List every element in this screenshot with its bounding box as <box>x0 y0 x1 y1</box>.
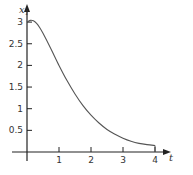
line-chart: 12340.511.522.53 x1 t <box>0 0 193 175</box>
y-tick-label: 2 <box>17 60 23 70</box>
series-line-x1 <box>27 20 155 145</box>
y-tick-label: 1.5 <box>9 82 23 92</box>
x-tick-label: 2 <box>88 155 94 165</box>
y-tick-label: 1 <box>17 104 23 114</box>
x-tick-label: 1 <box>56 155 62 165</box>
x-axis-label: t <box>169 152 174 163</box>
y-tick-label: 3 <box>17 17 23 27</box>
y-tick-label: 0.5 <box>9 125 23 135</box>
axes <box>12 4 171 161</box>
x-tick-label: 3 <box>120 155 126 165</box>
y-tick-label: 2.5 <box>9 39 23 49</box>
x-tick-label: 4 <box>152 155 158 165</box>
